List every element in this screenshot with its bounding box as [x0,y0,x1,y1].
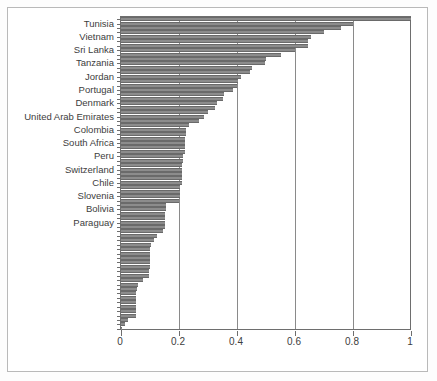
bar [121,296,136,300]
bar [121,79,238,83]
bar [121,17,411,21]
y-tick [117,307,121,308]
y-tick [117,90,121,91]
bar [121,238,154,242]
x-axis-label: 0.8 [345,336,359,347]
y-tick [117,143,121,144]
bar [121,309,136,313]
bar [121,115,204,119]
bar [121,26,341,30]
bar [121,216,165,220]
bar [121,84,237,88]
y-axis-label: Tunisia [84,17,114,28]
y-tick [117,81,121,82]
y-tick [117,112,121,113]
bar [121,92,224,96]
y-tick [117,285,121,286]
y-tick [117,262,121,263]
bar [121,300,136,304]
y-tick [117,72,121,73]
y-tick [117,298,121,299]
y-tick [117,302,121,303]
y-tick [117,134,121,135]
y-tick [117,178,121,179]
y-axis-label: Switzerland [65,163,114,174]
y-tick [117,258,121,259]
y-axis-label: Denmark [75,97,114,108]
y-tick [117,267,121,268]
bar [121,199,179,203]
bar [121,150,185,154]
y-tick [117,192,121,193]
y-tick [117,94,121,95]
y-tick [117,50,121,51]
x-axis-labels: 00.20.40.60.81 [120,334,411,354]
bar [121,88,233,92]
bar [121,247,150,251]
y-axis-labels: TunisiaVietnamSri LankaTanzaniaJordanPor… [0,16,116,330]
y-tick [117,289,121,290]
bar [121,44,308,48]
bar [121,70,250,74]
bar [121,66,252,70]
y-tick [117,254,121,255]
y-tick [117,316,121,317]
bar [121,322,125,326]
y-tick [117,37,121,38]
x-axis-label: 0.4 [229,336,243,347]
bar [121,168,182,172]
y-tick [117,183,121,184]
y-tick [117,236,121,237]
bar [121,48,295,52]
y-tick [117,68,121,69]
x-axis-label: 0.2 [171,336,185,347]
y-tick [117,293,121,294]
y-tick [117,196,121,197]
y-tick [117,125,121,126]
y-axis-label: South Africa [63,137,114,148]
bar [121,145,185,149]
bar [121,97,223,101]
bar [121,75,241,79]
plot-area [120,16,411,330]
bar [121,229,163,233]
y-tick [117,77,121,78]
bar [121,318,128,322]
y-tick [117,130,121,131]
bar [121,61,265,65]
bar [121,283,138,287]
bar [121,123,189,127]
y-tick [117,209,121,210]
y-tick [117,320,121,321]
y-axis-label: Vietnam [79,30,114,41]
y-axis-label: United Arab Emirates [24,110,114,121]
bar [121,132,186,136]
y-tick [117,108,121,109]
bar [121,141,185,145]
x-axis-label: 0 [117,336,123,347]
y-tick [117,19,121,20]
bar [121,234,157,238]
bar [121,278,143,282]
y-tick [117,103,121,104]
bar [121,314,136,318]
bar [121,274,149,278]
y-axis-label: Bolivia [86,203,114,214]
y-tick [117,46,121,47]
bar [121,137,185,141]
bar [121,207,166,211]
y-tick [117,201,121,202]
bar [121,291,136,295]
y-tick [117,63,121,64]
bar [121,159,183,163]
bar [121,176,182,180]
bar [121,128,186,132]
bar [121,190,180,194]
figure-canvas: TunisiaVietnamSri LankaTanzaniaJordanPor… [0,0,437,381]
y-tick [117,231,121,232]
y-tick [117,174,121,175]
bar [121,106,215,110]
gridline [295,17,296,329]
bar [121,30,324,34]
y-axis-label: Paraguay [73,216,114,227]
